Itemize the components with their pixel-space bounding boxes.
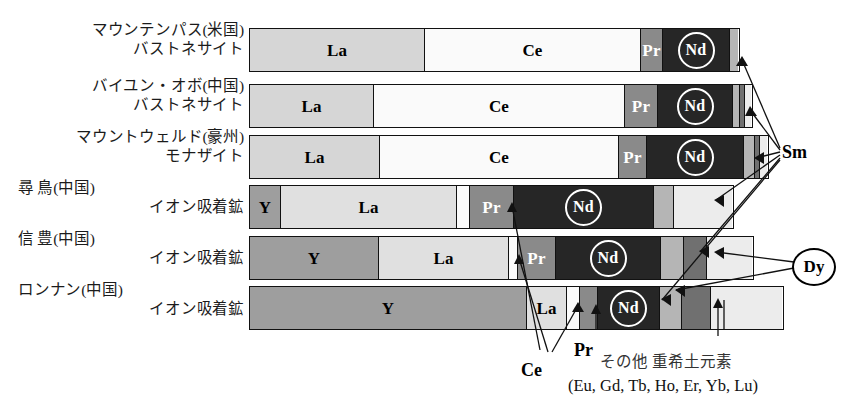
stacked-bar-xunwu: YLaPrNd: [249, 185, 734, 229]
bar-segment-label-la: La: [536, 300, 556, 317]
row-label-xinfeng: 信 豊(中国) イオン吸着鉱: [4, 229, 244, 267]
stacked-bar-mount-weld: LaCePrNd: [249, 135, 769, 179]
bar-segment-sm: [730, 29, 738, 71]
bar-segment-sm: [661, 237, 684, 279]
bar-segment-pr: Pr: [470, 186, 514, 228]
bar-segment-sm: [733, 85, 740, 127]
rare-earth-composition-chart: マウンテンパス(米国) バストネサイト バイユン・オボ(中国) バストネサイト …: [0, 0, 864, 407]
bar-segment-other: [674, 186, 732, 228]
callout-ce-label: Ce: [521, 360, 542, 381]
bar-segment-label-y: Y: [308, 250, 320, 267]
row-label-line1: ロンナン(中国): [4, 280, 244, 299]
row-label-line1: マウントウェルド(豪州): [4, 127, 244, 146]
bar-segment-la: La: [281, 186, 457, 228]
bar-segment-other: [745, 85, 751, 127]
bar-segment-pr: Pr: [619, 136, 647, 178]
bar-segment-la: La: [250, 29, 425, 71]
bar-segment-la: La: [250, 136, 380, 178]
row-label-mount-weld: マウントウェルド(豪州) モナザイト: [4, 127, 244, 165]
bar-segment-label-ce: Ce: [489, 98, 509, 115]
bar-segment-label-pr: Pr: [527, 250, 545, 267]
bar-segment-label-nd: Nd: [565, 189, 602, 226]
bar-segment-label-nd: Nd: [590, 240, 627, 277]
bar-segment-ce: Ce: [380, 136, 619, 178]
row-label-xunwu: 尋 鳥(中国) イオン吸着鉱: [4, 178, 244, 216]
bar-segment-label-pr: Pr: [632, 98, 650, 115]
row-label-line1: 信 豊(中国): [4, 229, 244, 248]
stacked-bar-bayan-obo: LaCePrNd: [249, 84, 753, 128]
bar-segment-la: La: [527, 287, 567, 329]
bar-segment-sm: [744, 136, 755, 178]
bar-segment-y: Y: [250, 237, 379, 279]
bar-segment-nd: Nd: [514, 186, 654, 228]
bar-segment-other: [707, 237, 752, 279]
bar-segment-pr: Pr: [625, 85, 658, 127]
bar-segment-dy: [684, 237, 707, 279]
bar-segment-nd: Nd: [598, 287, 660, 329]
bar-segment-label-la: La: [433, 250, 453, 267]
row-label-line2: イオン吸着鉱: [4, 197, 244, 216]
bar-segment-other: [760, 136, 767, 178]
bar-segment-label-ce: Ce: [489, 149, 509, 166]
bar-segment-label-pr: Pr: [623, 149, 641, 166]
row-label-line2: バストネサイト: [4, 95, 244, 114]
row-label-line2: イオン吸着鉱: [4, 248, 244, 267]
bar-segment-label-la: La: [301, 98, 321, 115]
callout-sm-label: Sm: [782, 142, 807, 163]
bar-segment-ce: [509, 237, 518, 279]
bar-segment-sm: [654, 186, 674, 228]
bar-segment-label-y: Y: [259, 199, 271, 216]
bar-segment-ce: [457, 186, 470, 228]
bar-segment-nd: Nd: [663, 29, 730, 71]
bar-segment-nd: Nd: [658, 85, 733, 127]
bar-segment-label-pr: Pr: [642, 42, 660, 59]
stacked-bar-mountain-pass: LaCePrNd: [249, 28, 740, 72]
legend-other-heavy-rare-earth: その他 重希土元素: [600, 352, 732, 372]
bar-segment-label-nd: Nd: [677, 139, 714, 176]
bar-segment-ce: Ce: [425, 29, 641, 71]
row-label-longnan: ロンナン(中国) イオン吸着鉱: [4, 280, 244, 318]
bar-segment-label-ce: Ce: [522, 42, 542, 59]
bar-segment-label-nd: Nd: [678, 32, 715, 69]
bar-segment-label-nd: Nd: [677, 88, 714, 125]
bar-segment-label-la: La: [304, 149, 324, 166]
row-label-line1: 尋 鳥(中国): [4, 178, 244, 197]
stacked-bar-longnan: YLaNd: [249, 286, 784, 330]
row-label-line2: イオン吸着鉱: [4, 299, 244, 318]
bar-segment-pr: Pr: [518, 237, 556, 279]
bar-segment-y: Y: [250, 186, 281, 228]
row-label-line2: バストネサイト: [4, 39, 244, 58]
bar-segment-nd: Nd: [556, 237, 661, 279]
row-label-bayan-obo: バイユン・オボ(中国) バストネサイト: [4, 76, 244, 114]
stacked-bar-xinfeng: YLaPrNd: [249, 236, 754, 280]
bar-segment-other: [711, 287, 782, 329]
callout-dy-label: Dy: [792, 248, 836, 286]
bar-segment-label-la: La: [358, 199, 378, 216]
bar-segment-dy: [682, 287, 711, 329]
bar-segment-y: Y: [250, 287, 527, 329]
legend-other-elements-list: (Eu, Gd, Tb, Ho, Er, Yb, Lu): [568, 376, 758, 396]
callout-pr-label: Pr: [574, 340, 593, 361]
row-label-mountain-pass: マウンテンパス(米国) バストネサイト: [4, 20, 244, 58]
bar-segment-pr: [580, 287, 598, 329]
row-label-line2: モナザイト: [4, 146, 244, 165]
row-label-line1: バイユン・オボ(中国): [4, 76, 244, 95]
bar-segment-ce: [567, 287, 580, 329]
bar-segment-pr: Pr: [641, 29, 663, 71]
bar-segment-label-la: La: [327, 42, 347, 59]
bar-segment-la: La: [379, 237, 509, 279]
bar-segment-nd: Nd: [647, 136, 744, 178]
bar-segment-ce: Ce: [374, 85, 625, 127]
bar-segment-la: La: [250, 85, 374, 127]
row-label-line1: マウンテンパス(米国): [4, 20, 244, 39]
bar-segment-label-y: Y: [382, 300, 394, 317]
bar-segment-label-nd: Nd: [610, 290, 647, 327]
bar-segment-sm: [660, 287, 682, 329]
bar-segment-label-pr: Pr: [482, 199, 500, 216]
